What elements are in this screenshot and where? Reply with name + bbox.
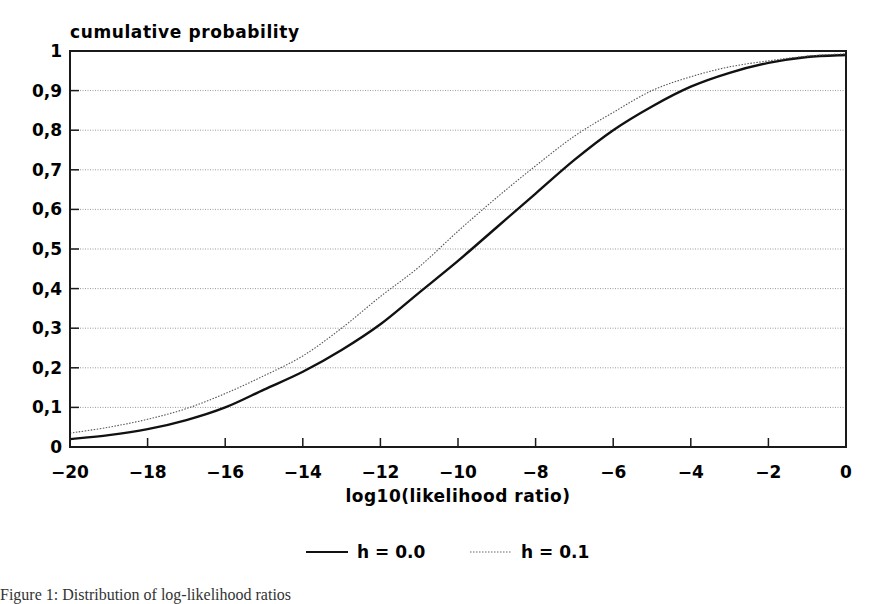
x-tick-label: −14: [284, 462, 322, 482]
y-tick-label: 0,7: [32, 160, 62, 180]
legend-label: h = 0.0: [357, 542, 425, 562]
series-line-h-0-1: [70, 54, 846, 433]
y-tick-label: 0,3: [32, 318, 62, 338]
y-tick-label: 0,1: [32, 397, 62, 417]
data-series: [70, 54, 846, 439]
x-tick-label: −10: [439, 462, 477, 482]
legend-label: h = 0.1: [521, 542, 589, 562]
x-axis-title: log10(likelihood ratio): [345, 486, 570, 506]
legend-item-solid: h = 0.0: [306, 542, 425, 562]
x-tick-label: −12: [361, 462, 399, 482]
x-tick-label: −18: [129, 462, 167, 482]
y-axis: 00,10,20,30,40,50,60,70,80,91: [32, 41, 79, 457]
x-tick-label: −4: [678, 462, 704, 482]
x-tick-label: 0: [840, 462, 852, 482]
y-tick-label: 0,5: [32, 239, 62, 259]
gridlines: [70, 91, 846, 408]
x-tick-label: −8: [523, 462, 549, 482]
x-axis: −20−18−16−14−12−10−8−6−4−20: [51, 438, 852, 482]
legend-item-dotted: h = 0.1: [470, 542, 589, 562]
figure-caption: Figure 1: Distribution of log-likelihood…: [0, 586, 291, 604]
y-tick-label: 0,4: [32, 279, 62, 299]
y-tick-label: 0,8: [32, 120, 62, 140]
x-tick-label: −2: [755, 462, 781, 482]
series-line-h-0-0: [70, 55, 846, 439]
x-tick-label: −6: [600, 462, 626, 482]
legend: h = 0.0 h = 0.1: [306, 542, 589, 562]
x-tick-label: −16: [206, 462, 244, 482]
x-tick-label: −20: [51, 462, 89, 482]
y-tick-label: 0: [50, 437, 62, 457]
y-tick-label: 1: [50, 41, 62, 61]
y-tick-label: 0,2: [32, 358, 62, 378]
y-tick-label: 0,6: [32, 199, 62, 219]
y-tick-label: 0,9: [32, 81, 62, 101]
y-axis-title: cumulative probability: [70, 22, 300, 42]
